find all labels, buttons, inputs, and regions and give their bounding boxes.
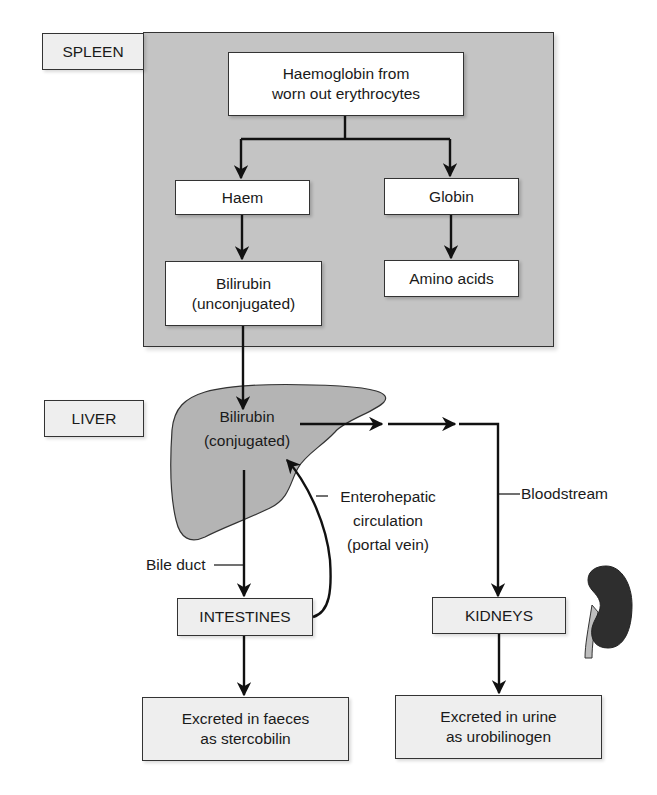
faeces-line-1: Excreted in faeces <box>182 709 310 729</box>
node-faeces: Excreted in faeces as stercobilin <box>142 697 349 761</box>
intestines-text: INTESTINES <box>199 607 290 627</box>
enterohepatic-line-1: Enterohepatic <box>328 485 448 509</box>
enterohepatic-line-2: circulation <box>328 509 448 533</box>
urine-line-2: as urobilinogen <box>446 727 551 747</box>
kidneys-text: KIDNEYS <box>465 606 533 626</box>
node-bilirubin-conjugated: Bilirubin (conjugated) <box>186 407 308 451</box>
urine-line-1: Excreted in urine <box>440 707 556 727</box>
node-intestines: INTESTINES <box>177 598 313 636</box>
node-urine: Excreted in urine as urobilinogen <box>395 695 602 759</box>
diagram-connectors <box>0 0 657 795</box>
enterohepatic-annotation: Enterohepatic circulation (portal vein) <box>328 485 448 557</box>
faeces-line-2: as stercobilin <box>200 729 290 749</box>
kidney-organ-icon <box>585 566 632 658</box>
bile-duct-annotation: Bile duct <box>146 555 205 575</box>
bloodstream-annotation: Bloodstream <box>521 484 608 504</box>
enterohepatic-line-3: (portal vein) <box>328 533 448 557</box>
bilirubin-conjugated-line-2: (conjugated) <box>186 431 308 451</box>
bilirubin-conjugated-line-1: Bilirubin <box>186 407 308 427</box>
node-kidneys: KIDNEYS <box>432 597 566 634</box>
